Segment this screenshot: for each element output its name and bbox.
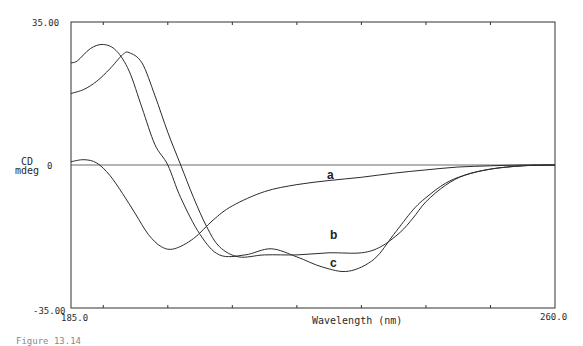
curve-label-a: a [327, 168, 334, 182]
curve-label-b: b [330, 228, 337, 242]
x-axis-start-label: 185.0 [61, 313, 88, 323]
y-axis-title-line2: mdeg [15, 166, 39, 175]
curve-label-c: c [330, 256, 337, 270]
x-axis-title: Wavelength (nm) [312, 316, 402, 326]
data-series [71, 44, 555, 271]
x-axis-end-label: 260.0 [540, 312, 567, 322]
series-line-c [71, 44, 555, 271]
y-axis-max-label: 35.00 [32, 18, 59, 28]
series-line-a [71, 160, 555, 250]
y-axis-title: CD mdeg [15, 157, 39, 175]
y-axis-zero-label: 0 [47, 161, 52, 171]
figure-caption: Figure 13.14 [16, 336, 81, 346]
